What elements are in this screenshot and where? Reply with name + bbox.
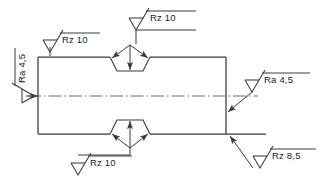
- surface-finish-callout-bottom-left[interactable]: Rz 10: [71, 148, 132, 175]
- top-notch-arrows: [112, 45, 148, 70]
- top-notch-arrow-left: [112, 45, 130, 58]
- surface-finish-callout-bottom-right[interactable]: Rz 8,5: [230, 136, 316, 168]
- callout-label: Ra 4,5: [264, 74, 293, 85]
- surface-finish-callout-top-left[interactable]: Rz 10: [43, 30, 100, 56]
- surface-finish-callout-left[interactable]: Ra 4,5: [12, 48, 38, 103]
- technical-drawing-canvas: Rz 10 Rz 10 Ra 4,5: [0, 0, 320, 188]
- callout-leader-line: [230, 136, 253, 168]
- top-notch-arrow-right: [130, 45, 148, 58]
- callout-leader-line: [228, 92, 252, 112]
- bottom-notch-arrow-right: [130, 134, 148, 148]
- bottom-notch-arrows: [112, 121, 148, 148]
- callout-label: Rz 10: [62, 34, 88, 45]
- callout-label: Rz 8,5: [272, 150, 301, 161]
- surface-finish-callout-top-center[interactable]: Rz 10: [129, 8, 196, 44]
- bottom-notch-arrow-left: [112, 134, 130, 148]
- callout-label: Rz 10: [90, 157, 116, 168]
- callout-label: Rz 10: [150, 12, 176, 23]
- callout-label: Ra 4,5: [16, 54, 27, 83]
- surface-finish-callout-right[interactable]: Ra 4,5: [228, 70, 310, 112]
